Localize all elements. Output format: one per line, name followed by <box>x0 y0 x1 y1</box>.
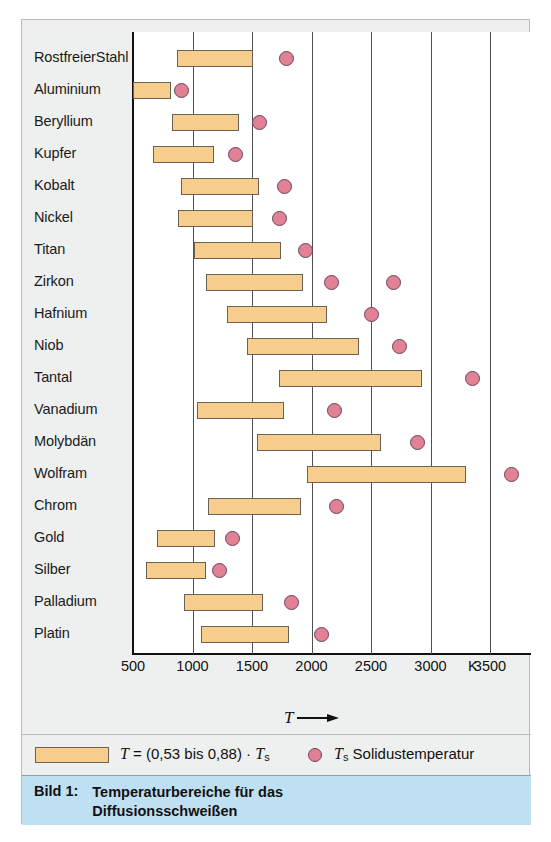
chart-legend: T = (0,53 bis 0,88) · Ts Ts Solidustempe… <box>22 734 531 775</box>
chart-row: Kupfer <box>22 138 531 170</box>
legend-bar-label: T = (0,53 bis 0,88) · Ts <box>120 745 270 763</box>
solidus-marker <box>228 147 243 162</box>
solidus-marker <box>465 371 480 386</box>
solidus-marker <box>272 211 287 226</box>
range-bar <box>177 50 253 67</box>
chart-row: Palladium <box>22 586 531 618</box>
row-label-gold: Gold <box>34 522 130 554</box>
solidus-marker <box>504 467 519 482</box>
range-bar <box>279 370 422 387</box>
range-bar <box>206 274 304 291</box>
row-label-palladium: Palladium <box>34 586 130 618</box>
legend-bar-formula: = (0,53 bis 0,88) · <box>129 745 255 762</box>
solidus-marker <box>410 435 425 450</box>
chart-row: Platin <box>22 618 531 650</box>
legend-dot-symbol: T <box>334 745 343 762</box>
row-label-wolfram: Wolfram <box>34 458 130 490</box>
row-label-nickel: Nickel <box>34 202 130 234</box>
range-bar <box>197 402 284 419</box>
legend-bar-symbol-2: T <box>255 745 264 762</box>
row-label-silber: Silber <box>34 554 130 586</box>
solidus-marker <box>327 403 342 418</box>
row-label-kobalt: Kobalt <box>34 170 130 202</box>
range-bar <box>153 146 214 163</box>
legend-bar-swatch <box>35 747 109 763</box>
range-bar <box>172 114 239 131</box>
row-label-chrom: Chrom <box>34 490 130 522</box>
range-bar <box>201 626 289 643</box>
x-tick-3000: 3000 <box>414 658 446 674</box>
chart-row: Beryllium <box>22 106 531 138</box>
row-label-aluminium: Aluminium <box>34 74 130 106</box>
solidus-marker <box>364 307 379 322</box>
solidus-marker <box>252 115 267 130</box>
chart-row: Hafnium <box>22 298 531 330</box>
range-bar <box>181 178 260 195</box>
solidus-marker <box>329 499 344 514</box>
axis-unit-label: K <box>468 658 478 674</box>
range-bar <box>247 338 359 355</box>
range-bar <box>208 498 301 515</box>
solidus-marker <box>314 627 329 642</box>
legend-bar-symbol: T <box>120 745 129 762</box>
legend-dot-label: Ts Solidustemperatur <box>334 745 474 763</box>
range-bar <box>157 530 215 547</box>
row-label-titan: Titan <box>34 234 130 266</box>
figure-caption: Bild 1: Temperaturbereiche für das Diffu… <box>22 775 531 825</box>
chart-plot-block: RostfreierStahlAluminiumBerylliumKupferK… <box>22 20 531 680</box>
solidus-marker <box>298 243 313 258</box>
range-bar <box>178 210 253 227</box>
legend-dot-swatch <box>308 748 322 762</box>
solidus-marker <box>324 275 339 290</box>
range-bar <box>133 82 171 99</box>
x-tick-500: 500 <box>121 658 145 674</box>
range-bar <box>184 594 263 611</box>
x-axis-title: T <box>284 708 341 728</box>
row-label-platin: Platin <box>34 618 130 650</box>
row-label-niob: Niob <box>34 330 130 362</box>
chart-row: Aluminium <box>22 74 531 106</box>
chart-row: Titan <box>22 234 531 266</box>
arrow-right-icon <box>297 714 341 722</box>
row-label-zirkon: Zirkon <box>34 266 130 298</box>
caption-number: Bild 1: <box>34 783 78 799</box>
chart-row: Vanadium <box>22 394 531 426</box>
solidus-marker <box>284 595 299 610</box>
chart-row: RostfreierStahl <box>22 42 531 74</box>
solidus-marker <box>225 531 240 546</box>
chart-row: Gold <box>22 522 531 554</box>
row-label-molybd-n: Molybdän <box>34 426 130 458</box>
chart-row: Silber <box>22 554 531 586</box>
solidus-marker <box>392 339 407 354</box>
range-bar <box>227 306 327 323</box>
solidus-marker <box>212 563 227 578</box>
solidus-marker <box>279 51 294 66</box>
axis-title-symbol: T <box>284 708 293 728</box>
solidus-marker <box>386 275 401 290</box>
chart-row: Nickel <box>22 202 531 234</box>
row-label-vanadium: Vanadium <box>34 394 130 426</box>
range-bar <box>307 466 466 483</box>
row-label-hafnium: Hafnium <box>34 298 130 330</box>
chart-row: Zirkon <box>22 266 531 298</box>
figure-container: RostfreierStahlAluminiumBerylliumKupferK… <box>21 19 530 824</box>
solidus-marker <box>277 179 292 194</box>
x-tick-1500: 1500 <box>236 658 268 674</box>
x-tick-3500: 3500 <box>474 658 506 674</box>
x-tick-2500: 2500 <box>355 658 387 674</box>
chart-row: Wolfram <box>22 458 531 490</box>
x-tick-2000: 2000 <box>295 658 327 674</box>
x-tick-1000: 1000 <box>176 658 208 674</box>
caption-title: Temperaturbereiche für das Diffusionssch… <box>92 783 412 821</box>
row-label-rostfreier-stahl: RostfreierStahl <box>34 42 130 74</box>
row-label-tantal: Tantal <box>34 362 130 394</box>
row-label-beryllium: Beryllium <box>34 106 130 138</box>
row-label-kupfer: Kupfer <box>34 138 130 170</box>
solidus-marker <box>174 83 189 98</box>
chart-row: Niob <box>22 330 531 362</box>
range-bar <box>146 562 206 579</box>
range-bar <box>194 242 281 259</box>
chart-row: Tantal <box>22 362 531 394</box>
chart-row: Chrom <box>22 490 531 522</box>
legend-bar-subscript: s <box>264 751 270 763</box>
